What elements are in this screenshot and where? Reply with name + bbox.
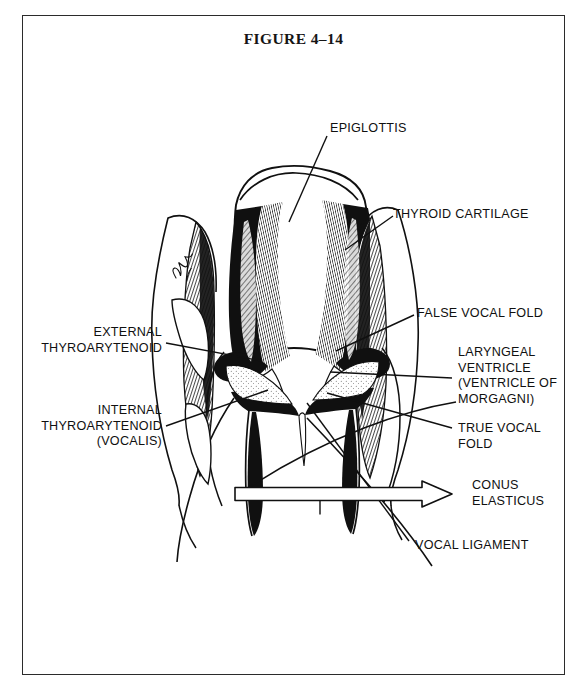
label-thyroid-cartilage: THYROID CARTILAGE <box>393 207 529 223</box>
leader-true-vocal-fold <box>327 393 452 428</box>
label-false-vocal-fold-line-1: FALSE VOCAL FOLD <box>417 306 543 322</box>
label-internal-thyroarytenoid: INTERNALTHYROARYTENOID(VOCALIS) <box>30 403 162 450</box>
label-laryngeal-ventricle-line-1: LARYNGEAL <box>458 345 557 361</box>
label-conus-elasticus-line-2: ELASTICUS <box>472 494 544 510</box>
label-laryngeal-ventricle-line-2: VENTRICLE <box>458 361 557 377</box>
label-vocal-ligament-line-1: VOCAL LIGAMENT <box>415 538 529 554</box>
subglottic-wall-left-shadow <box>248 412 263 536</box>
label-true-vocal-fold-line-1: TRUE VOCAL <box>458 421 541 437</box>
label-internal-thyroarytenoid-line-2: THYROARYTENOID <box>30 419 162 435</box>
label-external-thyroarytenoid: EXTERNALTHYROARYTENOID <box>30 325 162 356</box>
subglottic-wall-right-shadow <box>342 410 357 534</box>
label-true-vocal-fold: TRUE VOCALFOLD <box>458 421 541 452</box>
label-external-thyroarytenoid-line-2: THYROARYTENOID <box>30 341 162 357</box>
label-laryngeal-ventricle-line-3: (VENTRICLE OF <box>458 376 557 392</box>
label-true-vocal-fold-line-2: FOLD <box>458 437 541 453</box>
label-laryngeal-ventricle-line-4: MORGAGNI) <box>458 392 557 408</box>
right-thyroid-lamina-outline <box>391 210 419 505</box>
label-external-thyroarytenoid-line-1: EXTERNAL <box>30 325 162 341</box>
label-laryngeal-ventricle: LARYNGEALVENTRICLE(VENTRICLE OFMORGAGNI) <box>458 345 557 407</box>
label-conus-elasticus-line-1: CONUS <box>472 478 544 494</box>
larynx-anatomy <box>152 166 456 566</box>
label-conus-elasticus: CONUSELASTICUS <box>472 478 544 509</box>
label-false-vocal-fold: FALSE VOCAL FOLD <box>417 306 543 322</box>
label-vocal-ligament: VOCAL LIGAMENT <box>415 538 529 554</box>
left-thyroid-lamina-outline <box>152 218 180 505</box>
label-internal-thyroarytenoid-line-1: INTERNAL <box>30 403 162 419</box>
label-epiglottis: EPIGLOTTIS <box>330 121 407 137</box>
figure-page: FIGURE 4–14 <box>0 0 587 696</box>
label-thyroid-cartilage-line-1: THYROID CARTILAGE <box>393 207 529 223</box>
label-epiglottis-line-1: EPIGLOTTIS <box>330 121 407 137</box>
label-internal-thyroarytenoid-line-3: (VOCALIS) <box>30 434 162 450</box>
